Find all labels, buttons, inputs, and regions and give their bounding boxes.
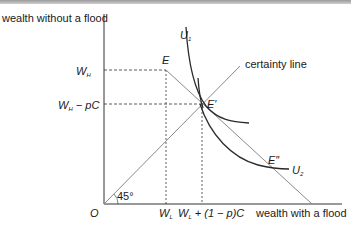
u2-label: U2: [292, 164, 304, 177]
budget-line: [166, 70, 312, 204]
angle-label: 45°: [117, 190, 134, 202]
point-e-double-prime-label: E″: [268, 154, 280, 166]
u1-label: U1: [180, 29, 191, 42]
wh-pc-label: WH − pC: [58, 99, 99, 112]
origin-label: O: [90, 207, 99, 219]
wl-label: WL: [159, 207, 173, 220]
point-e-label: E: [162, 54, 170, 66]
y-axis-label: wealth without a flood: [1, 12, 108, 24]
x-axis-label: wealth with a flood: [255, 207, 347, 219]
u1-curve: [186, 27, 249, 123]
certainty-line-label: certainty line: [245, 58, 307, 70]
point-e-prime-label: E′: [207, 98, 217, 110]
certainty-line: [104, 66, 240, 204]
insurance-diagram: wealth without a flood WH WH − pC E E′ E…: [0, 0, 351, 228]
wh-label: WH: [76, 65, 91, 78]
wl-plus-label: WL + (1 − p)C: [178, 207, 244, 220]
